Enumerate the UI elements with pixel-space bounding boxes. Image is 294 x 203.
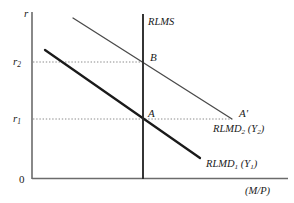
curve-label-rlmd1-paren-close: ) <box>254 158 258 169</box>
curve-label-rlmd1-sub: 1 <box>235 163 239 171</box>
curve-label-rlmd2: RLMD2 (Y2) <box>213 124 264 135</box>
curve-label-rlmd2-paren-close: ) <box>261 123 265 134</box>
curve-label-rlmd1-y-sub: 1 <box>250 163 254 171</box>
curve-rlmd2 <box>73 18 232 119</box>
x-axis-label: (M/P) <box>245 186 270 197</box>
money-market-diagram: r r2 r1 0 RLMS B A A' RLMD2 (Y2) RLMD1 (… <box>0 0 294 203</box>
origin-label: 0 <box>19 174 25 185</box>
y-tick-label-r1: r1 <box>13 113 21 124</box>
point-label-a-prime: A' <box>239 108 248 119</box>
y-axis-label: r <box>24 8 28 19</box>
curve-label-rlmd2-y-sub: 2 <box>257 128 261 136</box>
point-label-b: B <box>150 52 157 63</box>
curve-label-rlms: RLMS <box>148 17 174 28</box>
curve-label-rlmd1-main: RLMD <box>206 158 235 169</box>
y-tick-label-r2: r2 <box>13 56 21 67</box>
curve-label-rlmd1: RLMD1 (Y1) <box>206 159 257 170</box>
y-tick-r2-sub: 2 <box>17 60 21 69</box>
y-tick-r1-sub: 1 <box>17 117 21 126</box>
point-label-a: A <box>148 108 155 119</box>
curve-label-rlmd2-sub: 2 <box>242 128 246 136</box>
curve-label-rlmd2-main: RLMD <box>213 123 242 134</box>
diagram-canvas <box>0 0 294 203</box>
curve-rlmd1 <box>45 50 200 158</box>
